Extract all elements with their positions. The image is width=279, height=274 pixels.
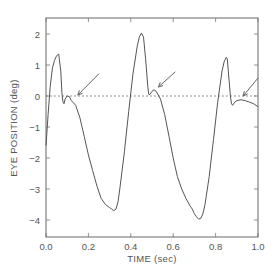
- x-tick-label: 1.0: [251, 241, 264, 252]
- y-tick-label: 2: [35, 29, 40, 40]
- plot-frame: [46, 18, 258, 237]
- x-tick-label: 0.6: [167, 241, 180, 252]
- x-tick-label: 0.0: [39, 241, 52, 252]
- axis-ticks: [46, 18, 258, 237]
- y-axis-label: EYE POSITION (deg): [8, 79, 19, 176]
- eye-position-chart: 0.00.20.40.60.81.0 210−1−2−3−4 TIME (sec…: [0, 0, 279, 274]
- y-tick-label: 1: [35, 60, 40, 71]
- annotation-arrow-icon: [78, 74, 99, 95]
- x-axis-label: TIME (sec): [127, 253, 176, 264]
- x-tick-label: 0.8: [209, 241, 222, 252]
- x-tick-label: 0.4: [124, 241, 137, 252]
- annotation-arrow-icon: [158, 72, 175, 87]
- x-tick-labels: 0.00.20.40.60.81.0: [39, 241, 264, 252]
- y-tick-label: −1: [29, 122, 40, 133]
- y-tick-labels: 210−1−2−3−4: [29, 29, 40, 226]
- y-tick-label: 0: [35, 91, 40, 102]
- annotation-arrows: [78, 72, 258, 96]
- y-tick-label: −4: [29, 215, 40, 226]
- y-tick-label: −3: [29, 184, 40, 195]
- x-tick-label: 0.2: [82, 241, 95, 252]
- y-tick-label: −2: [29, 153, 40, 164]
- annotation-arrow-icon: [243, 78, 258, 96]
- eye-position-trace: [46, 33, 258, 219]
